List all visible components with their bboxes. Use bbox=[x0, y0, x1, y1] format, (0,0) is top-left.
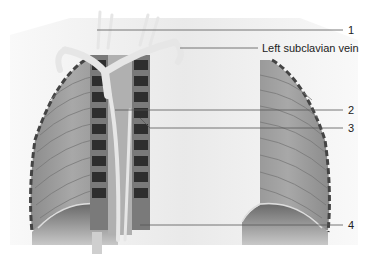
label-left-subclavian-vein: Left subclavian vein bbox=[262, 42, 359, 54]
label-3: 3 bbox=[348, 122, 354, 134]
anatomical-illustration bbox=[0, 0, 366, 259]
label-1: 1 bbox=[348, 24, 354, 36]
label-2: 2 bbox=[348, 104, 354, 116]
label-4: 4 bbox=[348, 219, 354, 231]
